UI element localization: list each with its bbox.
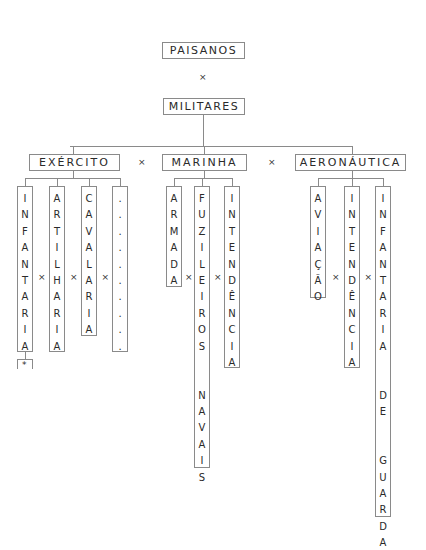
column-exercito-0: INFANTARIA <box>17 186 33 352</box>
column-letter: A <box>199 437 206 453</box>
column-letter: A <box>380 339 387 355</box>
root-separator: × <box>199 72 207 82</box>
column-letter: T <box>22 273 28 289</box>
column-letter: A <box>171 273 178 289</box>
column-letter: N <box>21 207 28 223</box>
column-letter: R <box>380 306 387 322</box>
connector-aeronautica-col-2 <box>383 178 384 186</box>
column-letter: I <box>351 339 354 355</box>
connector-branches-horizontal <box>70 146 353 147</box>
branch-separator: × <box>138 157 146 167</box>
column-letter: N <box>198 388 205 404</box>
column-letter: I <box>24 191 27 207</box>
column-letter: I <box>231 191 234 207</box>
column-letter <box>381 355 384 371</box>
column-letter: R <box>54 306 61 322</box>
column-letter: L <box>54 257 60 273</box>
column-letter: V <box>315 207 322 223</box>
column-letter: A <box>54 191 61 207</box>
column-letter: A <box>380 486 387 502</box>
connector-militares-down <box>203 115 204 146</box>
column-letter: A <box>380 289 387 305</box>
column-letter: T <box>54 224 60 240</box>
column-letter: D <box>379 519 387 535</box>
connector-to-marinha <box>204 146 205 154</box>
column-letter <box>381 420 384 436</box>
column-letter: A <box>199 404 206 420</box>
militares-label: MILITARES <box>169 100 240 113</box>
column-letter: A <box>315 240 322 256</box>
column-letter: R <box>171 207 178 223</box>
column-letter: A <box>54 289 61 305</box>
column-letter: O <box>314 289 322 305</box>
column-letter: L <box>199 257 205 273</box>
column-aeronautica-1: INTENDÊNCIA <box>344 186 360 368</box>
column-letter: D <box>170 257 178 273</box>
column-letter: G <box>379 453 387 469</box>
connector-marinha-col-1 <box>202 178 203 186</box>
column-letter: D <box>348 273 356 289</box>
column-letter: . <box>118 339 121 355</box>
connector-exercito-col-3 <box>120 178 121 186</box>
column-letter: A <box>229 355 236 371</box>
column-letter: F <box>22 224 28 240</box>
column-letter: Ê <box>229 289 235 305</box>
column-letter: S <box>199 470 205 486</box>
column-letter: Ê <box>349 289 355 305</box>
branch-box-marinha: MARINHA <box>162 154 247 171</box>
column-letter: N <box>228 257 235 273</box>
column-letter: I <box>88 306 91 322</box>
column-letter <box>381 437 384 453</box>
column-letter: A <box>86 240 93 256</box>
column-letter: . <box>118 240 121 256</box>
column-letter: E <box>229 240 235 256</box>
branch-separator: × <box>268 157 276 167</box>
column-letter: C <box>229 322 236 338</box>
column-letter: D <box>228 273 236 289</box>
connector-aeronautica-horizontal <box>318 178 384 179</box>
branch-label-exercito: EXÉRCITO <box>39 156 110 169</box>
column-letter <box>200 355 203 371</box>
connector-marinha-col-2 <box>232 178 233 186</box>
column-letter: M <box>170 224 179 240</box>
column-letter: F <box>199 191 205 207</box>
column-letter: U <box>379 470 386 486</box>
connector-marinha-down <box>204 171 205 178</box>
column-letter: N <box>348 257 355 273</box>
column-letter: I <box>201 453 204 469</box>
column-letter: E <box>349 240 355 256</box>
column-letter: R <box>22 306 29 322</box>
column-letter: A <box>349 355 356 371</box>
column-letter: E <box>380 404 386 420</box>
column-letter: R <box>199 306 206 322</box>
column-letter: T <box>229 224 235 240</box>
column-letter: Ã <box>315 273 322 289</box>
column-separator: × <box>70 272 78 282</box>
connector-marinha-horizontal <box>174 178 233 179</box>
column-letter: A <box>171 191 178 207</box>
column-letter: . <box>118 322 121 338</box>
connector-exercito-down <box>73 171 74 178</box>
column-letter: R <box>380 502 387 518</box>
column-letter: C <box>349 322 356 338</box>
column-letter: R <box>54 207 61 223</box>
column-exercito-1: ARTILHARIA <box>49 186 65 352</box>
militares-box: MILITARES <box>163 98 245 115</box>
column-letter: I <box>56 240 59 256</box>
column-letter: U <box>198 207 205 223</box>
column-letter: F <box>380 224 386 240</box>
column-exercito-2: CAVALARIA <box>81 186 97 336</box>
column-letter: I <box>382 191 385 207</box>
column-letter: A <box>86 322 93 338</box>
column-letter: I <box>351 191 354 207</box>
connector-aeronautica-down <box>352 171 353 178</box>
column-letter: N <box>379 207 386 223</box>
column-letter: E <box>199 273 205 289</box>
column-letter: T <box>380 273 386 289</box>
column-letter: V <box>199 420 206 436</box>
column-letter: A <box>380 535 387 550</box>
connector-marinha-col-0 <box>174 178 175 186</box>
column-letter: . <box>118 257 121 273</box>
column-letter <box>200 371 203 387</box>
column-letter: D <box>379 388 387 404</box>
